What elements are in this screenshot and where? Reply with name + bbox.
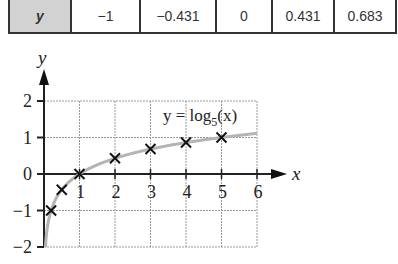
x-tick-label: 2	[112, 182, 121, 202]
x-axis-label: x	[291, 163, 301, 184]
y-tick-label: −2	[13, 237, 32, 257]
x-tick-label: 4	[183, 182, 192, 202]
table-cell: 0.683	[334, 0, 396, 33]
y-tick-label: 2	[23, 91, 32, 111]
y-axis-arrow-icon	[39, 69, 49, 85]
y-axis-label: y	[36, 47, 47, 68]
x-tick-label: 3	[147, 182, 156, 202]
table-cell: −1	[71, 0, 140, 33]
y-tick-label: 0	[23, 164, 32, 184]
value-table-container: y −1 −0.431 0 0.431 0.683	[8, 0, 398, 34]
row-header-y: y	[9, 0, 71, 33]
function-annotation: y = log5(x)	[163, 106, 237, 129]
axes	[37, 69, 287, 247]
table-cell: 0.431	[272, 0, 334, 33]
y-tick-label: 1	[23, 128, 32, 148]
x-tick-label: 1	[76, 182, 85, 202]
table-cell: 0	[216, 0, 272, 33]
table-row: y −1 −0.431 0 0.431 0.683	[9, 0, 396, 33]
table-cell: −0.431	[140, 0, 216, 33]
log-graph: 123456210−1−2 y x y = log5(x)	[0, 40, 385, 264]
value-table: y −1 −0.431 0 0.431 0.683	[8, 0, 397, 34]
x-tick-label: 5	[218, 182, 227, 202]
x-tick-label: 6	[254, 182, 263, 202]
x-axis-arrow-icon	[271, 169, 287, 179]
y-tick-label: −1	[13, 201, 32, 221]
